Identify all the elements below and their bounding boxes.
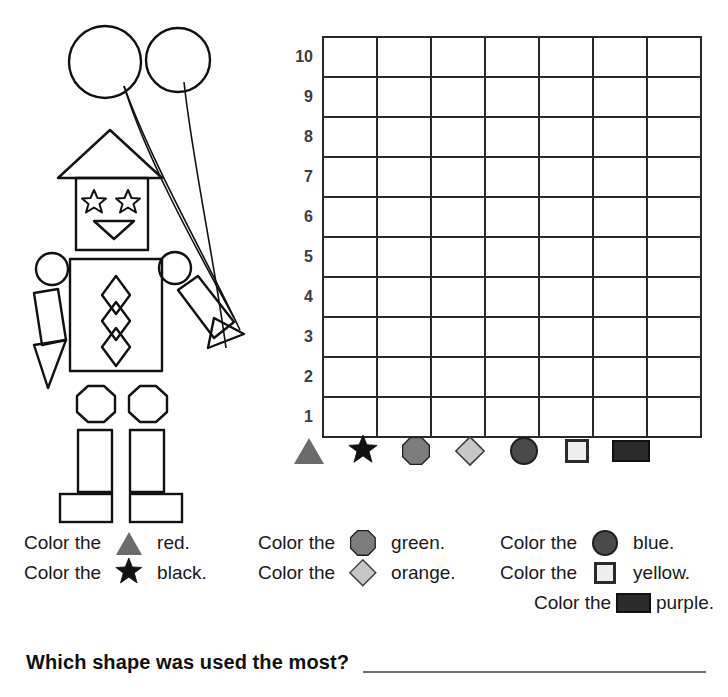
grid-cell[interactable] <box>323 117 377 157</box>
grid-row-label: 7 <box>283 157 323 197</box>
grid-cell[interactable] <box>323 157 377 197</box>
color-instruction-color-word: purple. <box>656 592 714 614</box>
color-instruction-shape <box>101 528 157 558</box>
grid-cell[interactable] <box>647 277 701 317</box>
grid-cell[interactable] <box>323 277 377 317</box>
grid-cell[interactable] <box>431 357 485 397</box>
color-instruction-triangle: Color thered. <box>24 528 256 558</box>
shape-key-cell <box>390 430 442 472</box>
grid-cell[interactable] <box>377 197 431 237</box>
grid-row: 2 <box>283 357 701 397</box>
tally-grid-table: 10987654321 <box>283 36 702 438</box>
color-instruction-color-word: black. <box>157 562 207 584</box>
grid-cell[interactable] <box>539 77 593 117</box>
shape-key-cell <box>444 430 496 472</box>
grid-cell[interactable] <box>539 157 593 197</box>
color-instruction-lead: Color the <box>500 532 577 554</box>
grid-cell[interactable] <box>431 117 485 157</box>
grid-cell[interactable] <box>485 157 539 197</box>
grid-cell[interactable] <box>485 277 539 317</box>
grid-cell[interactable] <box>485 77 539 117</box>
grid-cell[interactable] <box>593 157 647 197</box>
grid-cell[interactable] <box>485 197 539 237</box>
robot-feet <box>18 492 268 532</box>
grid-cell[interactable] <box>539 317 593 357</box>
grid-row: 8 <box>283 117 701 157</box>
chest-diamond-3 <box>102 328 130 366</box>
grid-cell[interactable] <box>431 237 485 277</box>
grid-cell[interactable] <box>377 317 431 357</box>
shape-key-row <box>283 430 657 472</box>
grid-row-label: 2 <box>283 357 323 397</box>
grid-cell[interactable] <box>647 37 701 77</box>
grid-cell[interactable] <box>593 117 647 157</box>
grid-cell[interactable] <box>485 37 539 77</box>
grid-cell[interactable] <box>431 317 485 357</box>
grid-cell[interactable] <box>593 237 647 277</box>
grid-cell[interactable] <box>647 197 701 237</box>
color-instruction-color-word: red. <box>157 532 190 554</box>
grid-row-label: 9 <box>283 77 323 117</box>
grid-cell[interactable] <box>593 357 647 397</box>
color-instruction-diamond: Color theorange. <box>258 558 498 588</box>
graph-grid: 10987654321 <box>283 36 702 438</box>
grid-cell[interactable] <box>485 317 539 357</box>
knee-octagon-left <box>77 386 115 422</box>
octagon-icon <box>402 437 430 465</box>
grid-cell[interactable] <box>377 237 431 277</box>
grid-cell[interactable] <box>323 357 377 397</box>
grid-cell[interactable] <box>377 157 431 197</box>
grid-cell[interactable] <box>647 77 701 117</box>
leg-rectangle-left <box>78 430 112 492</box>
grid-cell[interactable] <box>323 197 377 237</box>
answer-blank-line[interactable] <box>363 651 706 673</box>
color-instruction-star: Color theblack. <box>24 558 256 588</box>
grid-cell[interactable] <box>647 157 701 197</box>
grid-cell[interactable] <box>647 357 701 397</box>
color-instruction-rectangle: Color thepurple. <box>500 588 714 618</box>
grid-cell[interactable] <box>485 357 539 397</box>
grid-cell[interactable] <box>377 117 431 157</box>
color-instruction-shape <box>611 588 656 618</box>
grid-row: 5 <box>283 237 701 277</box>
chest-diamond-1 <box>102 276 130 314</box>
grid-cell[interactable] <box>431 157 485 197</box>
grid-cell[interactable] <box>647 317 701 357</box>
grid-cell[interactable] <box>377 77 431 117</box>
grid-row: 4 <box>283 277 701 317</box>
grid-cell[interactable] <box>539 357 593 397</box>
balloon-left-circle <box>69 26 141 98</box>
grid-cell[interactable] <box>539 197 593 237</box>
grid-cell[interactable] <box>323 37 377 77</box>
grid-cell[interactable] <box>647 117 701 157</box>
grid-cell[interactable] <box>593 277 647 317</box>
grid-cell[interactable] <box>431 37 485 77</box>
grid-cell[interactable] <box>539 277 593 317</box>
grid-cell[interactable] <box>323 77 377 117</box>
grid-cell[interactable] <box>593 197 647 237</box>
grid-cell[interactable] <box>485 237 539 277</box>
grid-cell[interactable] <box>323 317 377 357</box>
head-square <box>76 178 148 250</box>
grid-cell[interactable] <box>647 237 701 277</box>
grid-cell[interactable] <box>539 117 593 157</box>
grid-cell[interactable] <box>377 37 431 77</box>
question-text: Which shape was used the most? <box>26 651 349 674</box>
grid-cell[interactable] <box>431 197 485 237</box>
grid-cell[interactable] <box>431 77 485 117</box>
color-instruction-lead: Color the <box>534 592 611 614</box>
color-instruction-lead: Color the <box>500 562 577 584</box>
grid-cell[interactable] <box>539 37 593 77</box>
grid-cell[interactable] <box>593 317 647 357</box>
grid-cell[interactable] <box>323 237 377 277</box>
star-icon <box>115 557 143 590</box>
grid-cell[interactable] <box>431 277 485 317</box>
grid-cell[interactable] <box>377 357 431 397</box>
grid-cell[interactable] <box>593 37 647 77</box>
grid-cell[interactable] <box>377 277 431 317</box>
hand-triangle-left <box>34 340 66 388</box>
grid-cell[interactable] <box>485 117 539 157</box>
grid-cell[interactable] <box>593 77 647 117</box>
grid-row-label: 10 <box>283 37 323 77</box>
grid-cell[interactable] <box>539 237 593 277</box>
